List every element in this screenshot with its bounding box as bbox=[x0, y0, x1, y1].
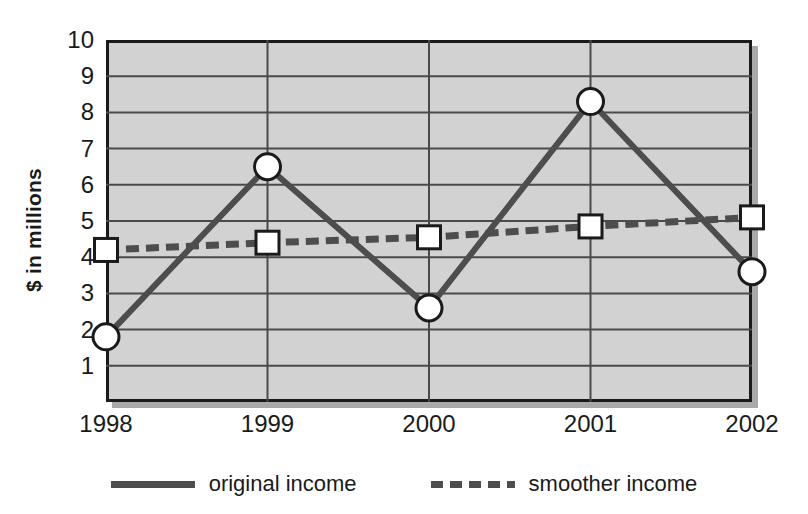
y-tick-label: 6 bbox=[60, 173, 94, 197]
y-tick-label: 3 bbox=[60, 281, 94, 305]
y-tick-label: 10 bbox=[60, 28, 94, 52]
chart-container: $ in millions 12345678910 19981999200020… bbox=[0, 0, 808, 514]
chart-legend: original income smoother income bbox=[0, 462, 808, 506]
legend-item-original-income: original income bbox=[111, 471, 357, 497]
legend-label-original-income: original income bbox=[209, 471, 357, 497]
y-tick-label: 1 bbox=[60, 354, 94, 378]
y-tick-label: 4 bbox=[60, 245, 94, 269]
data-point-marker bbox=[95, 238, 118, 261]
data-point-marker bbox=[578, 89, 604, 115]
y-tick-label: 9 bbox=[60, 64, 94, 88]
plot-series-layer bbox=[106, 40, 752, 402]
x-tick-label: 2002 bbox=[725, 410, 778, 438]
legend-item-smoother-income: smoother income bbox=[431, 471, 698, 497]
data-point-marker bbox=[255, 154, 281, 180]
data-point-marker bbox=[416, 295, 442, 321]
data-point-marker bbox=[739, 259, 765, 285]
x-tick-label: 2001 bbox=[564, 410, 617, 438]
x-tick-label: 1999 bbox=[241, 410, 294, 438]
legend-line-solid-icon bbox=[111, 481, 195, 488]
data-point-marker bbox=[418, 226, 441, 249]
y-tick-label: 8 bbox=[60, 100, 94, 124]
x-tick-label: 2000 bbox=[402, 410, 455, 438]
y-tick-label: 5 bbox=[60, 209, 94, 233]
y-tick-label: 7 bbox=[60, 137, 94, 161]
data-point-marker bbox=[741, 206, 764, 229]
data-point-marker bbox=[256, 231, 279, 254]
legend-label-smoother-income: smoother income bbox=[529, 471, 698, 497]
x-tick-label: 1998 bbox=[79, 410, 132, 438]
data-point-marker bbox=[579, 215, 602, 238]
legend-line-dashed-icon bbox=[431, 481, 515, 488]
data-point-marker bbox=[93, 324, 119, 350]
y-tick-label: 2 bbox=[60, 318, 94, 342]
